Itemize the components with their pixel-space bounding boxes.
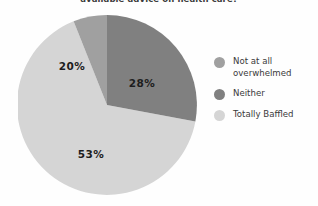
- legend-label-line1: Not at all: [233, 56, 272, 66]
- legend-item-totally-baffled[interactable]: Totally Baffled: [214, 109, 318, 121]
- legend-swatch-icon-not-at-all-overwhelmed: [214, 57, 225, 68]
- legend-label-line2: overwhelmed: [233, 68, 291, 78]
- chart-title: available advice on health care?: [0, 0, 318, 3]
- pie-label-neither: 28%: [129, 77, 155, 89]
- legend-item-not-at-all-overwhelmed[interactable]: Not at all overwhelmed: [214, 56, 318, 79]
- legend-label-totally-baffled: Totally Baffled: [233, 109, 294, 121]
- pie-label-totally-baffled: 53%: [78, 148, 104, 160]
- chart-legend: Not at all overwhelmed Neither Totally B…: [214, 56, 318, 130]
- legend-swatch-icon-neither: [214, 89, 225, 100]
- pie-slice-neither[interactable]: [107, 15, 197, 121]
- pie-chart-figure: available advice on health care? 28% 53%…: [0, 0, 318, 206]
- legend-label-not-at-all-overwhelmed: Not at all overwhelmed: [233, 56, 291, 79]
- pie-svg: 28% 53% 20%: [18, 8, 198, 200]
- legend-item-neither[interactable]: Neither: [214, 88, 318, 100]
- pie-label-not-at-all-overwhelmed: 20%: [59, 60, 85, 72]
- pie-chart-graphic: 28% 53% 20%: [18, 8, 198, 200]
- legend-label-neither: Neither: [233, 88, 265, 100]
- legend-swatch-icon-totally-baffled: [214, 110, 225, 121]
